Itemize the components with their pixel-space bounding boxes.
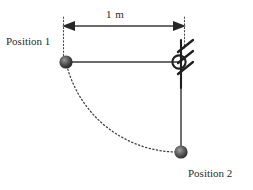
arrow-right-icon (173, 21, 186, 31)
dimension-label: 1 m (106, 9, 124, 20)
position-2-label: Position 2 (188, 168, 232, 179)
diagram-canvas (0, 0, 253, 190)
pendulum-diagram: 1 m Position 1 Position 2 (0, 0, 253, 190)
dotted-trajectory-arc-icon (66, 62, 181, 152)
pendulum-bob-icon-position-1 (59, 55, 72, 68)
arrow-left-icon (62, 21, 75, 31)
fixed-pivot-support-icon (172, 40, 193, 88)
position-1-label: Position 1 (6, 36, 50, 47)
pendulum-bob-icon-position-2 (174, 145, 187, 158)
